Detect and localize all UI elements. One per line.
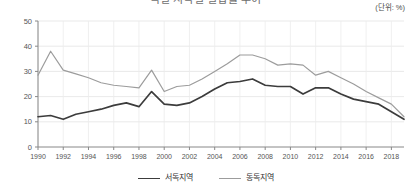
x-tick-label: 1992 [55, 153, 71, 160]
x-tick-label: 2010 [283, 153, 299, 160]
legend-line-swatch-icon [138, 178, 160, 179]
y-tick-label: 10 [24, 117, 32, 126]
y-axis-ticks: 01020304050 [24, 17, 38, 152]
x-tick-label: 2008 [257, 153, 273, 160]
x-tick-label: 2000 [156, 153, 172, 160]
data-series-layer [38, 51, 404, 119]
x-tick-label: 2006 [232, 153, 248, 160]
legend-label-east: 동독지역 [246, 173, 274, 183]
chart-container: 독일 지역별 실업률 추이 (단위: %) 01020304050 199019… [0, 0, 411, 189]
x-tick-label: 1996 [106, 153, 122, 160]
legend-item-west[interactable]: 서독지역 [138, 173, 193, 183]
y-tick-label: 30 [24, 67, 32, 76]
x-tick-label: 2018 [384, 153, 400, 160]
plot-area: 01020304050 1990199219941996199820002002… [0, 0, 411, 189]
x-tick-label: 2004 [207, 153, 223, 160]
x-tick-label: 2012 [308, 153, 324, 160]
x-tick-label: 2014 [333, 153, 349, 160]
y-tick-label: 40 [24, 42, 32, 51]
gridlines [38, 21, 404, 147]
series-line-west [38, 79, 404, 119]
legend-item-east[interactable]: 동독지역 [219, 173, 274, 183]
y-tick-label: 20 [24, 92, 32, 101]
legend-label-west: 서독지역 [165, 173, 193, 183]
x-tick-label: 2016 [358, 153, 374, 160]
x-tick-label: 1990 [30, 153, 46, 160]
legend-line-swatch-icon [219, 178, 241, 179]
x-tick-label: 1998 [131, 153, 147, 160]
x-tick-label: 2002 [182, 153, 198, 160]
line-chart-svg: 01020304050 1990199219941996199820002002… [0, 0, 411, 189]
chart-legend: 서독지역 동독지역 [0, 169, 411, 187]
x-tick-label: 1994 [81, 153, 97, 160]
x-axis-ticks: 1990199219941996199820002002200420062008… [30, 147, 399, 160]
y-tick-label: 50 [24, 17, 32, 26]
y-tick-label: 0 [28, 143, 32, 152]
series-line-east [38, 51, 404, 117]
